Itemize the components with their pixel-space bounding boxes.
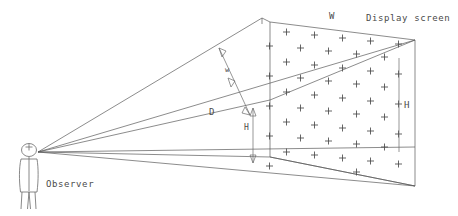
plus-marker-icon [266, 163, 273, 170]
observer-eye-marker [26, 144, 33, 151]
plus-marker-icon [353, 141, 360, 148]
plus-marker-icon [367, 98, 374, 105]
dimension-arrow-icon [219, 48, 226, 57]
sight-ray-center [38, 147, 415, 152]
plus-marker-icon [381, 54, 388, 61]
plus-marker-icon [311, 122, 318, 129]
plus-marker-icon [339, 95, 346, 102]
sight-ray-group [38, 18, 415, 186]
plus-marker-icon [367, 38, 374, 45]
plus-marker-icon [266, 43, 273, 50]
sight-ray-top-near [38, 40, 415, 152]
dimension-arrow-icon [242, 107, 250, 115]
plus-marker-icon [395, 71, 402, 78]
label-view-height: H [244, 123, 249, 132]
plus-marker-icon [297, 135, 304, 142]
plus-marker-icon [297, 105, 304, 112]
plus-marker-icon [353, 111, 360, 118]
plus-marker-icon [339, 125, 346, 132]
sight-ray-bottom [38, 152, 415, 186]
plus-marker-icon [367, 128, 374, 135]
plus-marker-icon [367, 68, 374, 75]
observer-leg-left [21, 192, 22, 209]
dimension-view-width [219, 48, 250, 115]
display-screen [262, 18, 415, 186]
sight-ray-top-far [38, 18, 262, 152]
observer-leg-split [28, 192, 31, 209]
plus-marker-icon [353, 81, 360, 88]
plus-marker-icon [325, 108, 332, 115]
sight-ray-mid-upper [38, 100, 270, 152]
plus-marker-icon [266, 133, 273, 140]
plus-marker-icon [339, 35, 346, 42]
plus-marker-icon [297, 75, 304, 82]
plus-marker-icon [395, 131, 402, 138]
plus-marker-icon [266, 73, 273, 80]
plus-marker-icon [339, 65, 346, 72]
viewing-geometry-diagram: W Display screen H w D H Observer [0, 0, 458, 216]
plus-marker-icon [311, 62, 318, 69]
label-screen-height: H [404, 100, 410, 110]
plus-marker-icon [325, 48, 332, 55]
plus-marker-icon [283, 29, 290, 36]
plus-marker-icon [297, 45, 304, 52]
plus-marker-icon [381, 144, 388, 151]
label-viewing-distance: D [209, 107, 215, 117]
plus-marker-icon [311, 92, 318, 99]
plus-marker-icon [381, 84, 388, 91]
plus-marker-icon [283, 119, 290, 126]
plus-marker-icon [325, 78, 332, 85]
plus-marker-icon [367, 158, 374, 165]
observer-leg-right [35, 192, 36, 209]
plus-marker-icon [339, 155, 346, 162]
label-observer: Observer [46, 179, 94, 189]
dimension-view-height [250, 108, 256, 163]
plus-marker-icon [395, 161, 402, 168]
plus-marker-icon [395, 41, 402, 48]
diagram-canvas: W Display screen H w D H Observer [0, 0, 458, 216]
plus-marker-icon [311, 152, 318, 159]
plus-marker-icon [283, 149, 290, 156]
plus-marker-icon [266, 103, 273, 110]
label-screen-width: W [329, 11, 335, 21]
sight-ray-floor-edge [38, 152, 270, 157]
label-display-screen: Display screen [366, 13, 450, 23]
observer-figure-icon [19, 144, 38, 210]
screen-marker-grid [266, 29, 402, 176]
plus-marker-icon [395, 101, 402, 108]
plus-marker-icon [325, 138, 332, 145]
screen-back-top-edge [262, 18, 270, 22]
plus-marker-icon [283, 59, 290, 66]
plus-marker-icon [311, 32, 318, 39]
plus-marker-icon [381, 114, 388, 121]
